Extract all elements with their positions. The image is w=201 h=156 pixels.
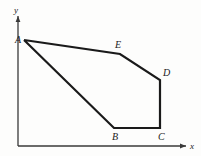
figure-canvas	[0, 0, 201, 156]
vertex-label-d: D	[163, 68, 170, 78]
vertex-label-c: C	[158, 132, 165, 142]
y-axis-label: y	[14, 5, 18, 15]
polygon-group	[24, 40, 160, 128]
geometry-figure: y x AEDCB	[0, 0, 201, 156]
vertex-label-e: E	[115, 40, 121, 50]
polygon-outline	[24, 40, 160, 128]
vertex-label-b: B	[112, 132, 118, 142]
x-axis-label: x	[190, 141, 194, 151]
vertex-label-a: A	[15, 35, 21, 45]
